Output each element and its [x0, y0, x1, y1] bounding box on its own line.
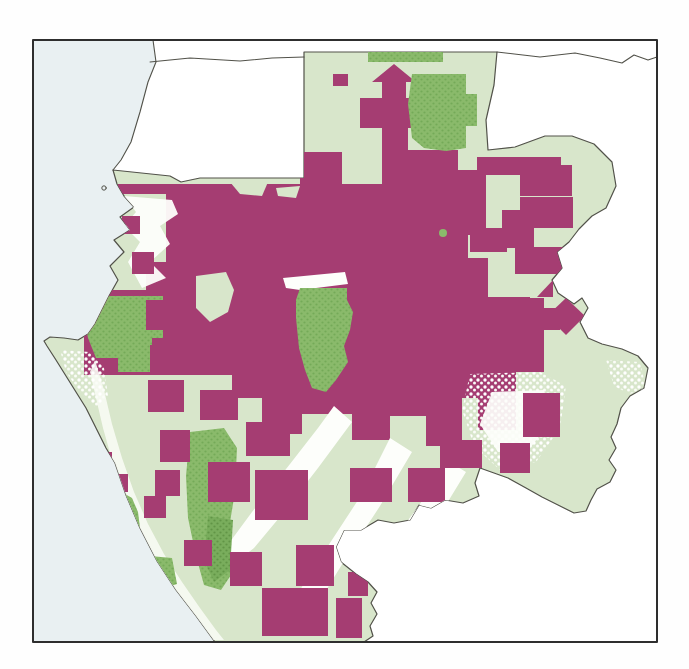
map-canvas: [0, 0, 689, 669]
scanned-map-figure: [0, 0, 689, 669]
concession-block: [155, 470, 180, 496]
concession-block: [230, 552, 262, 586]
concession-block: [144, 496, 166, 518]
concession-block: [336, 598, 362, 638]
concession-block: [296, 545, 334, 586]
concession-block: [200, 390, 238, 420]
protected-area-dot: [439, 229, 447, 237]
concession-block: [152, 338, 180, 362]
concession-block: [184, 540, 212, 566]
concession-block: [333, 74, 348, 86]
concession-block: [132, 252, 154, 274]
concession-block: [262, 588, 328, 636]
concession-block: [146, 300, 174, 330]
concession-block: [246, 422, 290, 456]
concession-block: [255, 470, 308, 520]
concession-block: [520, 165, 572, 196]
concession-block: [160, 430, 190, 462]
concession-block: [208, 462, 250, 502]
concession-block: [148, 380, 184, 412]
concession-block: [350, 468, 392, 502]
concession-block: [500, 443, 530, 473]
concession-block: [470, 228, 507, 252]
concession-block: [440, 440, 482, 468]
concession-block: [523, 393, 560, 437]
concession-block: [408, 468, 445, 502]
